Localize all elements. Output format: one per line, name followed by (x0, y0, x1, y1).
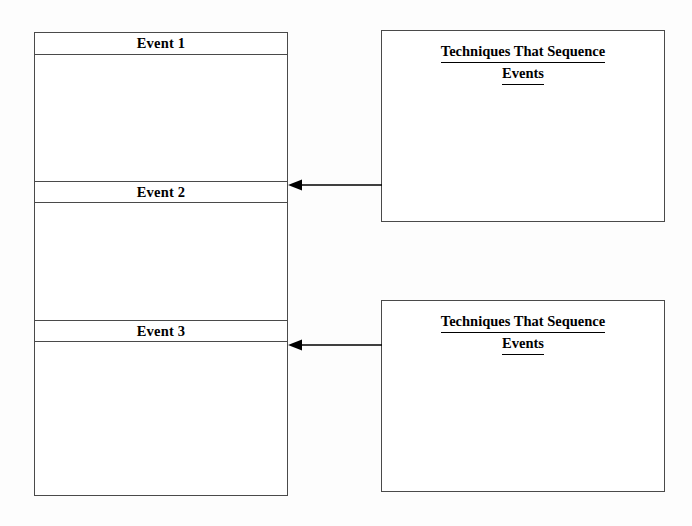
techniques-box-top-title: Techniques That Sequence Events (382, 41, 664, 85)
events-sequence-column: Event 1 Event 2 Event 3 (34, 32, 288, 496)
event-2-content[interactable] (35, 203, 287, 320)
event-2-label: Event 2 (137, 185, 186, 200)
organizer-canvas: Event 1 Event 2 Event 3 Techniques That … (0, 0, 692, 526)
left-arrow-icon (286, 337, 384, 353)
event-1-content[interactable] (35, 55, 287, 181)
techniques-box-top[interactable]: Techniques That Sequence Events (381, 30, 665, 222)
arrow-techniques-top-to-event-2 (286, 177, 384, 193)
event-1-label: Event 1 (137, 36, 186, 51)
techniques-box-bottom[interactable]: Techniques That Sequence Events (381, 300, 665, 492)
techniques-box-bottom-title-line-1: Techniques That Sequence (441, 311, 605, 333)
left-arrow-icon (286, 177, 384, 193)
event-2-header[interactable]: Event 2 (35, 181, 287, 203)
techniques-box-bottom-title-line-2: Events (502, 333, 544, 355)
event-3-content[interactable] (35, 342, 287, 495)
event-1-header[interactable]: Event 1 (35, 33, 287, 55)
techniques-box-top-title-line-2: Events (502, 63, 544, 85)
event-3-header[interactable]: Event 3 (35, 320, 287, 342)
event-3-label: Event 3 (137, 324, 186, 339)
techniques-box-bottom-title: Techniques That Sequence Events (382, 311, 664, 355)
arrow-techniques-bottom-to-event-3 (286, 337, 384, 353)
techniques-box-top-title-line-1: Techniques That Sequence (441, 41, 605, 63)
